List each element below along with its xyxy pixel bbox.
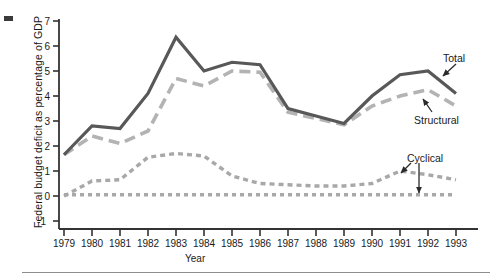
annotation-arrows: [401, 64, 456, 193]
series-line-structural: [64, 71, 456, 155]
chart-plot-area: [0, 0, 501, 279]
series-line-cyclical: [64, 154, 456, 197]
footer-divider: [22, 272, 490, 273]
figure-chart: Federal budget deficit as percentage of …: [0, 0, 501, 279]
x-axis-ticks: [64, 229, 456, 236]
